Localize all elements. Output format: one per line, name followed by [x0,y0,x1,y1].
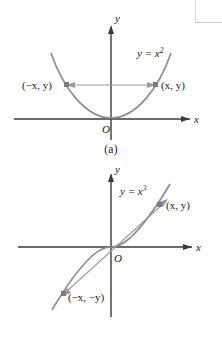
y-axis-label-b: y [114,165,120,175]
panel-a-even-function: y x O y = x2 (−x, y) (x, y) (a) [0,0,222,170]
panel-b-plot: y x O y = x3 (x, y) (−x, −y) [0,165,222,339]
x-axis-label-a: x [193,113,199,125]
point-marker-upper-b [157,202,162,207]
origin-label-a: O [102,123,110,135]
point-label-lower-b: (−x, −y) [68,291,105,304]
point-label-upper-b: (x, y) [166,199,190,212]
x-axis-b [18,244,192,250]
curve-equation-a: y = x2 [136,46,164,59]
point-marker-lower-b [61,291,66,296]
symmetry-figure: y x O y = x2 (−x, y) (x, y) (a) [0,0,222,339]
y-axis-label-a: y [114,12,120,24]
point-marker-left-a [64,82,69,87]
scan-border-artifact [195,0,222,23]
y-axis-b [108,173,114,317]
point-label-left-a: (−x, y) [22,79,52,92]
point-label-right-a: (x, y) [161,79,185,92]
x-axis-label-b: x [195,241,201,253]
panel-b-odd-function: y x O y = x3 (x, y) (−x, −y) (b) [0,165,222,339]
curve-equation-b: y = x3 [119,184,147,197]
point-marker-right-a [153,82,158,87]
origin-label-b: O [114,252,122,264]
caption-a: (a) [0,143,222,155]
